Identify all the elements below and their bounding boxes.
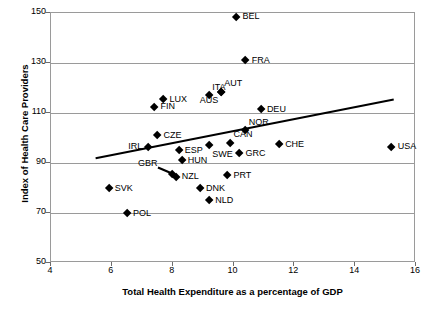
diamond-marker: [196, 183, 205, 192]
point-label: CZE: [163, 131, 181, 140]
diamond-marker: [387, 142, 396, 151]
point-label-gbr: GBR: [138, 158, 158, 168]
point-label: PRT: [233, 171, 251, 180]
diamond-marker: [205, 196, 214, 205]
diamond-marker: [235, 148, 244, 157]
gridline: [51, 213, 414, 214]
point-label: SVK: [115, 184, 133, 193]
point-label: NLD: [215, 196, 233, 205]
point-label: NZL: [182, 172, 199, 181]
diamond-marker: [174, 146, 183, 155]
point-label: DEU: [267, 105, 286, 114]
point-label: CHE: [285, 140, 304, 149]
point-label: BEL: [243, 12, 260, 21]
point-label: POL: [133, 209, 151, 218]
point-label: GRC: [246, 149, 266, 158]
x-tick-label: 10: [218, 266, 248, 275]
point-label: USA: [398, 142, 417, 151]
x-tick-mark: [172, 262, 173, 266]
point-label: FIN: [160, 102, 175, 111]
x-tick-label: 16: [400, 266, 430, 275]
gridline: [51, 63, 414, 64]
x-tick-mark: [354, 262, 355, 266]
point-label: AUT: [224, 79, 242, 88]
point-label: IRL: [128, 142, 142, 151]
x-tick-label: 8: [157, 266, 187, 275]
point-label: SWE: [212, 150, 233, 159]
point-label: ESP: [185, 146, 203, 155]
x-tick-label: 14: [339, 266, 369, 275]
x-tick-mark: [50, 262, 51, 266]
diamond-marker: [275, 140, 284, 149]
gridline: [51, 163, 414, 164]
point-label: DNK: [206, 184, 225, 193]
x-axis-title: Total Health Expenditure as a percentage…: [50, 286, 415, 297]
gridline: [51, 113, 414, 114]
x-tick-label: 12: [278, 266, 308, 275]
point-label: HUN: [188, 156, 208, 165]
diamond-marker: [232, 12, 241, 21]
diamond-marker: [104, 183, 113, 192]
plot-area: BELFRAAUTITAAUSLUXFINDEUNORCZECANCHESWEI…: [50, 12, 415, 262]
x-tick-mark: [111, 262, 112, 266]
x-tick-label: 6: [96, 266, 126, 275]
diamond-marker: [144, 142, 153, 151]
point-label: NOR: [249, 118, 269, 127]
point-label: FRA: [252, 56, 270, 65]
diamond-marker: [226, 138, 235, 147]
diamond-marker: [153, 131, 162, 140]
diamond-marker: [223, 171, 232, 180]
y-tick-label: 50: [6, 257, 46, 266]
point-label: AUS: [200, 96, 219, 105]
scatter-chart-figure: 150130110907050 46810121416 BELFRAAUTITA…: [0, 0, 431, 313]
x-tick-mark: [293, 262, 294, 266]
x-tick-mark: [233, 262, 234, 266]
diamond-marker: [123, 208, 132, 217]
diamond-marker: [150, 102, 159, 111]
point-label: CAN: [233, 130, 252, 139]
y-axis-title: Index of Health Care Providers: [19, 24, 30, 244]
y-tick-label: 150: [6, 7, 46, 16]
x-tick-label: 4: [35, 266, 65, 275]
x-tick-mark: [415, 262, 416, 266]
